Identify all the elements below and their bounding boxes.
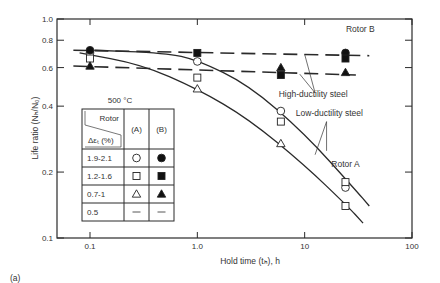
- leader-line: [315, 122, 327, 155]
- legend-range-label: 1.9-2.1: [87, 154, 112, 163]
- annotations: Rotor BHigh-ductility steelLow-ductility…: [279, 24, 375, 169]
- life-ratio-chart: 0.11.0101000.10.20.40.60.81.0 500 °CRoto…: [0, 0, 440, 283]
- y-tick-label: 0.2: [42, 168, 54, 177]
- y-tick-label: 0.6: [42, 64, 54, 73]
- legend-header-rotor: Rotor: [99, 114, 119, 123]
- legend-header-strain: Δεₜ (%): [88, 136, 114, 145]
- y-tick-label: 0.8: [42, 36, 54, 45]
- x-tick-label: 100: [405, 242, 419, 251]
- legend-table: 500 °CRotorΔεₜ (%)(A)(B)1.9-2.11.2-1.60.…: [82, 96, 174, 221]
- x-axis-label: Hold time (tₕ), h: [220, 256, 280, 266]
- annotation-label: Rotor A: [331, 159, 360, 169]
- filled-circle-marker-icon: [86, 46, 94, 54]
- temperature-label: 500 °C: [108, 96, 133, 105]
- legend-range-label: 0.5: [87, 208, 99, 217]
- x-tick-label: 1.0: [192, 242, 204, 251]
- y-axis-label: Life ratio (Nₕ/N₀): [30, 96, 40, 159]
- open-square-marker-icon: [342, 179, 349, 186]
- open-circle-marker-icon: [133, 154, 141, 162]
- annotation-label: Low-ductility steel: [296, 108, 363, 118]
- annotation-label: Rotor B: [346, 24, 375, 34]
- filled-triangle-marker-icon: [341, 68, 349, 75]
- figure-label: (a): [10, 273, 21, 283]
- filled-circle-marker-icon: [158, 154, 166, 162]
- open-square-marker-icon: [277, 118, 284, 125]
- open-circle-marker-icon: [277, 107, 285, 115]
- x-tick-label: 10: [300, 242, 309, 251]
- filled-triangle-marker-icon: [277, 63, 285, 70]
- filled-triangle-marker-icon: [86, 62, 94, 69]
- y-tick-label: 0.4: [42, 102, 54, 111]
- open-square-marker-icon: [133, 173, 140, 180]
- open-square-marker-icon: [194, 74, 201, 81]
- filled-square-marker-icon: [277, 71, 284, 78]
- open-square-marker-icon: [342, 202, 349, 209]
- y-tick-label: 0.1: [42, 234, 54, 243]
- legend-header-b: (B): [156, 125, 167, 134]
- open-circle-marker-icon: [193, 58, 201, 66]
- dashed-trend-line: [73, 66, 356, 75]
- y-tick-label: 1.0: [42, 15, 54, 24]
- filled-square-marker-icon: [342, 55, 349, 62]
- legend-range-label: 0.7-1: [87, 190, 106, 199]
- legend-range-label: 1.2-1.6: [87, 172, 112, 181]
- x-tick-label: 0.1: [84, 242, 96, 251]
- legend-header-a: (A): [131, 125, 142, 134]
- filled-square-marker-icon: [194, 49, 201, 56]
- filled-square-marker-icon: [158, 173, 165, 180]
